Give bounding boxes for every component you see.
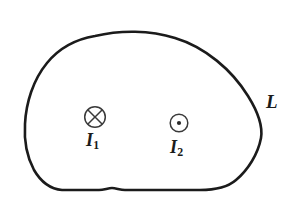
closed-loop-curve [25, 32, 262, 190]
loop-label: L [266, 92, 278, 111]
diagram-canvas [0, 0, 295, 214]
physics-diagram-figure: L I1 I2 [0, 0, 295, 214]
current-1-label: I1 [86, 131, 99, 152]
circle-cross-icon [85, 107, 106, 128]
current-2-label: I2 [170, 138, 183, 159]
circle-dot-icon [170, 114, 188, 132]
